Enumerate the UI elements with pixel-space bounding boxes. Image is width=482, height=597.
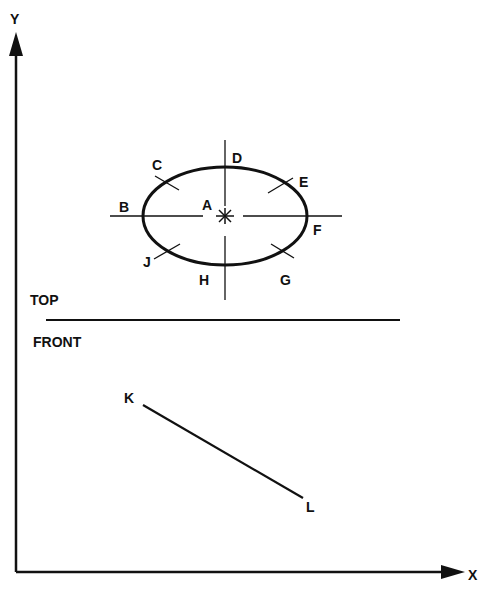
point-label-a: A [202, 197, 212, 213]
point-label-g: G [280, 272, 291, 288]
y-axis-label: Y [10, 11, 20, 27]
point-label-b: B [119, 199, 129, 215]
point-label-j: J [143, 254, 151, 270]
center-point-marker [216, 208, 234, 224]
x-axis-label: X [468, 567, 478, 583]
point-label-e: E [299, 174, 308, 190]
projection-diagram: Y X TOP FRONT A B C D E F G H J K L [0, 0, 482, 597]
point-label-c: C [152, 157, 162, 173]
point-label-l: L [306, 499, 315, 515]
point-label-k: K [124, 390, 134, 406]
point-label-d: D [232, 150, 242, 166]
x-axis-arrow-icon [441, 565, 465, 579]
line-kl [143, 405, 303, 498]
point-label-f: F [313, 222, 322, 238]
front-view-label: FRONT [33, 334, 82, 350]
y-axis-arrow-icon [9, 32, 23, 56]
top-view-label: TOP [30, 292, 59, 308]
point-label-h: H [199, 272, 209, 288]
